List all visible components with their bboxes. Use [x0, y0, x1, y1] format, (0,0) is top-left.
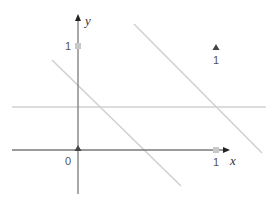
x-axis-label: x: [230, 154, 236, 167]
origin-label: 0: [65, 156, 71, 167]
x-axis-arrow-icon: [223, 147, 230, 153]
diagonal-line-right: [134, 24, 262, 153]
coordinate-diagram: [0, 0, 280, 206]
y-tick-label: 1: [65, 41, 71, 52]
origin-marker-icon: [75, 145, 82, 151]
x-unit-marker-icon: [213, 147, 219, 153]
diagonal-line-left: [52, 60, 181, 186]
x-tick-label: 1: [213, 157, 219, 168]
legend-triangle-icon: [213, 44, 220, 50]
y-axis-label: y: [85, 14, 91, 27]
y-axis-arrow-icon: [75, 14, 81, 21]
y-unit-marker-icon: [75, 43, 81, 49]
legend-marker-label: 1: [213, 55, 219, 66]
